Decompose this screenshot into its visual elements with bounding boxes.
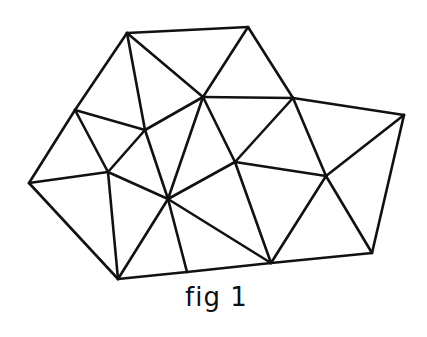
mesh-edge-M-L (118, 272, 187, 279)
mesh-edge-C-K (145, 130, 168, 199)
mesh-edge-C-J (108, 130, 145, 172)
mesh-edge-B-A (75, 33, 127, 110)
mesh-edge-F-N (293, 98, 326, 176)
mesh-edge-F-H (235, 98, 293, 162)
mesh-edge-O-M (187, 263, 271, 272)
mesh-edge-K-L (118, 199, 168, 279)
mesh-edge-N-P (326, 176, 372, 253)
mesh-edge-E-F (248, 27, 293, 98)
mesh-edge-H-O (235, 162, 271, 263)
mesh-edge-D-F (203, 97, 293, 98)
mesh-edge-A-E (127, 27, 248, 33)
mesh-edge-E-D (203, 27, 248, 97)
mesh-edge-I-J (29, 172, 108, 183)
mesh-edge-D-H (203, 97, 235, 162)
figure-caption: fig 1 (185, 282, 248, 312)
mesh-edge-L-I (29, 183, 118, 279)
mesh-edge-N-O (271, 176, 326, 263)
mesh-edge-I-B (29, 110, 75, 183)
mesh-edge-H-N (235, 162, 326, 176)
mesh-edge-J-L (108, 172, 118, 279)
mesh-edge-P-O (271, 253, 372, 263)
mesh-edge-F-G (293, 98, 404, 115)
